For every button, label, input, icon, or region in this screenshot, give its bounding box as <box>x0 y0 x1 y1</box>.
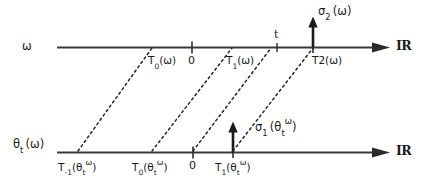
top-axis-variable-label: ω <box>22 41 32 53</box>
bottom-Tm1-arg: (θtω) <box>72 161 96 173</box>
dotted-connectors-group <box>78 48 313 151</box>
bottom-Tm1-sub: -1 <box>64 168 72 177</box>
bottom-axis-group <box>57 122 390 159</box>
sigma1-arg: (θtω) <box>270 120 297 134</box>
math-diagram-figure: ω IR T0(ω) 0 T1(ω) T2(ω) t σ2 (ω) θt (ω)… <box>0 0 434 191</box>
sigma1-sub: 1 <box>262 128 267 138</box>
top-tick-label-T2: T2(ω) <box>312 55 342 66</box>
top-T1-sub: 1 <box>232 62 237 71</box>
sigma2-sub: 2 <box>325 12 330 22</box>
connector-Tm1-to-T0 <box>78 48 152 151</box>
bottom-axis-variable-label: θt (ω) <box>13 139 44 153</box>
sigma1-arrowhead <box>228 122 237 133</box>
bottom-tick-label-T0: T0(θtω) <box>132 160 168 175</box>
bottom-T0-arg: (θtω) <box>143 161 167 173</box>
bottom-axis-name-label: IR <box>396 145 411 158</box>
top-T2-base: T2 <box>312 54 325 66</box>
bottom-T1-arg: (θtω) <box>226 161 250 173</box>
bottom-T1-sub: 1 <box>221 168 226 177</box>
top-T2-arg: (ω) <box>325 54 342 66</box>
top-tick-label-T1: T1(ω) <box>226 55 254 69</box>
top-time-marker-label: t <box>274 29 278 40</box>
top-T0-arg: (ω) <box>159 54 176 66</box>
bottom-T0-sub: 0 <box>138 168 143 177</box>
top-T0-sub: 0 <box>154 62 159 71</box>
bottom-tick-label-zero: 0 <box>189 160 196 171</box>
sigma1-label: σ1 (θtω) <box>255 119 296 135</box>
sigma2-arrowhead <box>308 17 317 28</box>
sigma2-arg: (ω) <box>333 4 352 18</box>
bottom-var-sub: t <box>20 145 23 155</box>
sigma2-label: σ2 (ω) <box>318 6 351 20</box>
bottom-axis-arrowhead <box>372 148 390 158</box>
top-axis-name-label: IR <box>396 40 411 53</box>
top-axis-group <box>57 17 390 54</box>
bottom-var-arg: (ω) <box>26 137 45 151</box>
top-tick-label-zero: 0 <box>188 55 195 66</box>
top-tick-label-T0: T0(ω) <box>148 55 176 69</box>
top-T1-arg: (ω) <box>237 54 254 66</box>
bottom-tick-label-T1: T1(θtω) <box>215 160 251 175</box>
bottom-tick-label-Tm1: T-1(θtω) <box>58 160 96 175</box>
top-axis-arrowhead <box>372 43 390 53</box>
bottom-var-base: θ <box>13 137 20 151</box>
